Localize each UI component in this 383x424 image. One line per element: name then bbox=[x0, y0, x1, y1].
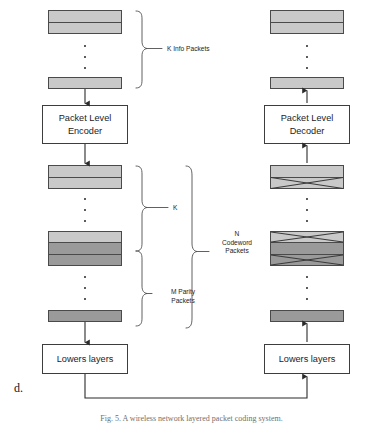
tx-codeword-packet-3 bbox=[48, 310, 122, 322]
ellipsis-dot bbox=[306, 45, 308, 47]
rx-output-packets-ellipsis bbox=[303, 45, 311, 69]
packet-band bbox=[49, 242, 121, 253]
packet-band bbox=[49, 11, 121, 22]
rx-output-packet-bottom bbox=[270, 77, 344, 89]
ellipsis-dot bbox=[306, 298, 308, 300]
rx-received-ellipsis-upper bbox=[303, 198, 311, 222]
ellipsis-dot bbox=[84, 198, 86, 200]
rx-received-packet-1 bbox=[270, 165, 344, 189]
packet-band bbox=[271, 78, 343, 88]
ellipsis-dot bbox=[306, 56, 308, 58]
k-bracket-label: K bbox=[173, 204, 177, 213]
panel-letter: d. bbox=[14, 381, 23, 396]
ellipsis-dot bbox=[84, 56, 86, 58]
tx-info-packet-bottom bbox=[48, 77, 122, 89]
packet-band bbox=[271, 22, 343, 34]
packet-band bbox=[271, 311, 343, 321]
packet-band bbox=[49, 232, 121, 242]
tx-lower-layers-box: Lowers layers bbox=[42, 344, 128, 374]
tx-codeword-packet-1 bbox=[48, 165, 122, 189]
ellipsis-dot bbox=[306, 198, 308, 200]
bracket-m-parity-packets bbox=[136, 251, 147, 326]
channel-path bbox=[85, 374, 307, 398]
ellipsis-dot bbox=[84, 220, 86, 222]
rx-received-packet-2 bbox=[270, 231, 344, 266]
packet-band-erased bbox=[271, 232, 343, 242]
m-parity-line2: Packets bbox=[171, 297, 194, 304]
figure-canvas: Packet Level Encoder Lowers layers bbox=[0, 0, 383, 424]
ellipsis-dot bbox=[84, 209, 86, 211]
packet-band bbox=[49, 177, 121, 189]
ellipsis-dot bbox=[84, 287, 86, 289]
m-parity-packets-label: M Parity Packets bbox=[155, 288, 211, 305]
n-codeword-line1: N bbox=[235, 230, 240, 237]
packet-band bbox=[49, 78, 121, 88]
packet-band bbox=[271, 11, 343, 22]
n-codeword-line3: Packets bbox=[225, 247, 248, 254]
packet-band bbox=[49, 22, 121, 34]
m-parity-line1: M Parity bbox=[171, 288, 195, 295]
encoder-label-line1: Packet Level bbox=[59, 112, 112, 125]
bracket-k bbox=[136, 166, 147, 251]
rx-output-packet-top bbox=[270, 10, 344, 34]
packet-band bbox=[49, 311, 121, 321]
tx-lower-layers-label: Lowers layers bbox=[57, 353, 114, 366]
tx-codeword-ellipsis-upper bbox=[81, 198, 89, 222]
k-info-packets-label: K Info Packets bbox=[167, 45, 210, 54]
rx-received-packet-3 bbox=[270, 310, 344, 322]
ellipsis-dot bbox=[84, 67, 86, 69]
packet-band bbox=[49, 166, 121, 177]
tx-info-packet-top bbox=[48, 10, 122, 34]
decoder-label-line1: Packet Level bbox=[281, 112, 334, 125]
ellipsis-dot bbox=[306, 287, 308, 289]
tx-codeword-packet-2 bbox=[48, 231, 122, 266]
ellipsis-dot bbox=[306, 209, 308, 211]
rx-lower-layers-box: Lowers layers bbox=[264, 344, 350, 374]
packet-level-decoder-box: Packet Level Decoder bbox=[264, 105, 350, 144]
encoder-label-line2: Encoder bbox=[68, 125, 102, 138]
figure-caption: Fig. 5. A wireless network layered packe… bbox=[0, 414, 383, 423]
rx-received-ellipsis-lower bbox=[303, 276, 311, 300]
bracket-k-info-packets bbox=[136, 11, 147, 88]
packet-band bbox=[49, 254, 121, 265]
packet-band-erased bbox=[271, 177, 343, 189]
ellipsis-dot bbox=[84, 45, 86, 47]
ellipsis-dot bbox=[306, 276, 308, 278]
ellipsis-dot bbox=[84, 276, 86, 278]
packet-band bbox=[271, 242, 343, 253]
packet-level-encoder-box: Packet Level Encoder bbox=[42, 105, 128, 144]
packet-band bbox=[271, 166, 343, 177]
ellipsis-dot bbox=[84, 298, 86, 300]
n-codeword-packets-label: N Codeword Packets bbox=[211, 230, 263, 256]
n-codeword-line2: Codeword bbox=[222, 239, 252, 246]
packet-band-erased bbox=[271, 254, 343, 265]
tx-info-packets-ellipsis bbox=[81, 45, 89, 69]
decoder-label-line2: Decoder bbox=[290, 125, 325, 138]
rx-lower-layers-label: Lowers layers bbox=[279, 353, 336, 366]
tx-codeword-ellipsis-lower bbox=[81, 276, 89, 300]
ellipsis-dot bbox=[306, 67, 308, 69]
ellipsis-dot bbox=[306, 220, 308, 222]
